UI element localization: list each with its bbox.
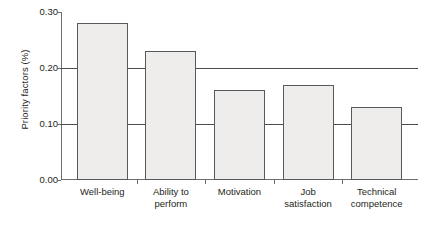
x-category-label: Well-being [68,186,137,198]
y-tick-label: 0.20 [24,63,58,73]
bar [145,51,196,180]
x-category-label: Ability toperform [137,186,206,210]
x-category-label: Technicalcompetence [342,186,411,210]
bar-chart: Priority factors (%) 0.00 0.10 0.20 0.30… [0,0,430,229]
y-tick-label: 0.30 [24,7,58,17]
plot-area [61,12,418,180]
x-axis-category-labels: Well-beingAbility toperformMotivationJob… [61,186,418,226]
x-tick-mark [274,180,275,184]
y-tick-label: 0.00 [24,175,58,185]
bar [351,107,402,180]
bar [283,85,334,180]
x-category-label: Motivation [205,186,274,198]
x-category-label: Jobsatisfaction [274,186,343,210]
bar [214,90,265,180]
y-axis-tick-labels: 0.00 0.10 0.20 0.30 [22,0,58,229]
y-tick-mark [57,180,61,181]
x-tick-mark [342,180,343,184]
y-tick-label: 0.10 [24,119,58,129]
bars-layer [61,12,418,180]
bar [77,23,128,180]
x-tick-mark [137,180,138,184]
x-tick-mark [205,180,206,184]
